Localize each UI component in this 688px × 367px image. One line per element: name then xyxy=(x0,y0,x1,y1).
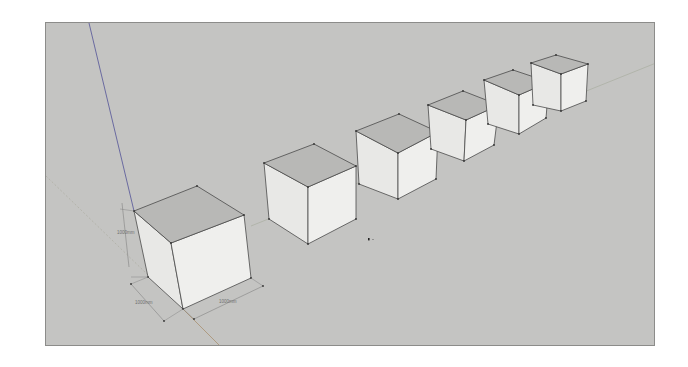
blue-axis-line xyxy=(89,23,134,211)
vertex-point xyxy=(560,73,562,75)
vertex-point xyxy=(170,242,172,244)
vertex-point xyxy=(307,186,309,188)
vertex-point xyxy=(530,62,532,64)
vertex-point xyxy=(196,185,198,187)
vertex-point xyxy=(518,133,520,135)
vertex-point xyxy=(313,143,315,145)
vertex-point xyxy=(483,79,485,81)
modeling-viewport[interactable]: 1000mm 1000mm 1000mm xyxy=(45,22,655,346)
vertex-point xyxy=(307,243,309,245)
depth-dimension-label: 1000mm xyxy=(135,300,153,305)
vertex-point xyxy=(263,162,265,164)
width-dimension-label: 1000mm xyxy=(219,299,237,304)
vertex-point xyxy=(397,198,399,200)
vertex-point xyxy=(355,218,357,220)
vertex-point xyxy=(463,160,465,162)
vertex-point xyxy=(435,178,437,180)
vertex-point xyxy=(398,113,400,115)
vertex-point xyxy=(465,119,467,121)
vertex-point xyxy=(355,130,357,132)
vertex-point xyxy=(493,144,495,146)
vertex-point xyxy=(545,117,547,119)
vertex-point xyxy=(532,104,534,106)
vertex-point xyxy=(512,69,514,71)
vertex-point xyxy=(462,90,464,92)
vertex-point xyxy=(358,183,360,185)
height-dimension-label: 1000mm xyxy=(117,230,135,235)
vertex-point xyxy=(427,104,429,106)
vertex-point xyxy=(355,165,357,167)
vertex-point xyxy=(243,214,245,216)
cursor-icon xyxy=(368,238,374,240)
vertex-point xyxy=(268,218,270,220)
vertex-point xyxy=(487,123,489,125)
cube-group[interactable] xyxy=(133,54,589,310)
vertex-point xyxy=(585,100,587,102)
vertex-point xyxy=(397,152,399,154)
cube-1[interactable] xyxy=(133,185,252,310)
3d-scene[interactable]: 1000mm 1000mm 1000mm xyxy=(46,23,655,346)
vertex-point xyxy=(587,63,589,65)
red-axis-line xyxy=(183,309,221,346)
vertex-point xyxy=(555,54,557,56)
cube-6[interactable] xyxy=(530,54,589,112)
vertex-point xyxy=(430,148,432,150)
vertex-point xyxy=(560,110,562,112)
vertex-point xyxy=(518,94,520,96)
cube-3[interactable] xyxy=(355,113,439,200)
cube-2[interactable] xyxy=(263,143,357,245)
